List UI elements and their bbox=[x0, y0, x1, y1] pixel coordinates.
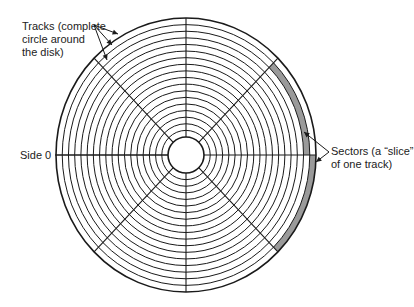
disk-hub bbox=[168, 137, 204, 173]
sector-divider bbox=[94, 58, 173, 142]
sectors-arrow-head bbox=[316, 157, 322, 162]
tracks-label: Tracks (complete circle around the disk) bbox=[22, 20, 106, 59]
sectors-label-line-1: Sectors (a “slice” bbox=[331, 145, 414, 158]
sector-divider bbox=[199, 168, 278, 252]
tracks-label-line-3: the disk) bbox=[22, 46, 106, 59]
tracks-label-line-1: Tracks (complete bbox=[22, 20, 106, 33]
highlighted-sector bbox=[274, 155, 316, 252]
sector-divider bbox=[94, 168, 173, 252]
sector-divider bbox=[199, 58, 278, 142]
sectors-label: Sectors (a “slice” of one track) bbox=[331, 145, 414, 171]
highlighted-sector bbox=[269, 63, 310, 155]
sectors-label-line-2: of one track) bbox=[331, 158, 414, 171]
tracks-label-line-2: circle around bbox=[22, 33, 106, 46]
side-label: Side 0 bbox=[20, 149, 51, 162]
